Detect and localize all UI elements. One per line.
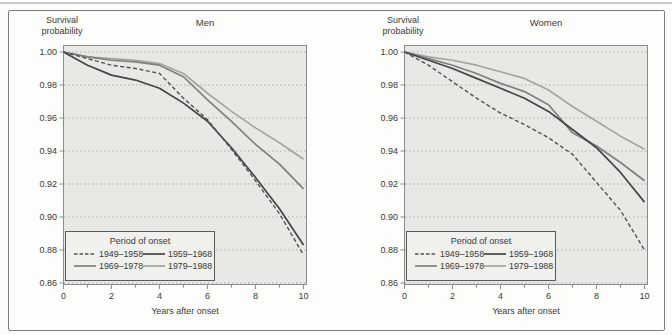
legend-label: 1949–1958: [99, 249, 143, 259]
y-tick-label: 0.94: [380, 146, 398, 156]
y-tick-label: 0.90: [380, 212, 398, 222]
legend-marker: [415, 251, 437, 257]
legend-item-1979-1988: 1979–1988: [143, 261, 212, 271]
y-tick-label: 0.86: [39, 278, 57, 288]
women-chart-title: Women: [424, 17, 668, 28]
legend-label: 1959–1968: [509, 249, 553, 259]
y-tick-label: 0.88: [39, 245, 57, 255]
x-tick-label: 2: [450, 291, 455, 301]
x-tick-label: 8: [253, 291, 258, 301]
page-top-rule: [0, 2, 672, 4]
x-tick-label: 6: [205, 291, 210, 301]
men-chart-panel: Survival probability Men 1.000.980.960.9…: [9, 11, 339, 328]
legend-item-1979-1988: 1979–1988: [484, 261, 553, 271]
men-legend-items: 1949–19581959–19681969–19781979–1988: [74, 249, 210, 271]
women-legend-title: Period of onset: [407, 236, 555, 246]
legend-label: 1969–1978: [99, 261, 143, 271]
legend-label: 1969–1978: [440, 261, 484, 271]
x-tick-label: 2: [109, 291, 114, 301]
y-tick-label: 1.00: [39, 47, 57, 57]
legend-marker: [74, 251, 96, 257]
men-legend-title: Period of onset: [66, 236, 214, 246]
legend-item-1949-1958: 1949–1958: [415, 249, 484, 259]
legend-marker: [143, 263, 165, 269]
legend-item-1959-1968: 1959–1968: [143, 249, 212, 259]
y-tick-label: 0.92: [380, 179, 398, 189]
x-tick-label: 10: [298, 291, 308, 301]
y-tick-label: 0.96: [39, 113, 57, 123]
y-tick-label: 0.88: [380, 245, 398, 255]
x-tick-label: 0: [61, 291, 66, 301]
legend-marker: [74, 263, 96, 269]
legend-label: 1949–1958: [440, 249, 484, 259]
legend-item-1959-1968: 1959–1968: [484, 249, 553, 259]
y-tick-label: 0.94: [39, 146, 57, 156]
legend-marker: [143, 251, 165, 257]
men-legend: Period of onset 1949–19581959–19681969–1…: [65, 231, 215, 281]
women-legend: Period of onset 1949–19581959–19681969–1…: [406, 231, 556, 281]
x-tick-label: 0: [402, 291, 407, 301]
women-chart-panel: Survival probability Women 1.000.980.960…: [350, 11, 672, 328]
legend-marker: [484, 263, 506, 269]
y-tick-label: 0.92: [39, 179, 57, 189]
y-tick-label: 1.00: [380, 47, 398, 57]
legend-label: 1959–1968: [168, 249, 212, 259]
legend-marker: [484, 251, 506, 257]
legend-label: 1979–1988: [509, 261, 553, 271]
legend-marker: [415, 263, 437, 269]
legend-item-1969-1978: 1969–1978: [415, 261, 484, 271]
men-x-axis-title: Years after onset: [63, 306, 307, 316]
legend-item-1949-1958: 1949–1958: [74, 249, 143, 259]
women-x-axis-title: Years after onset: [404, 306, 648, 316]
y-tick-label: 0.98: [39, 80, 57, 90]
women-legend-items: 1949–19581959–19681969–19781979–1988: [415, 249, 551, 271]
men-chart-title: Men: [83, 17, 327, 28]
y-tick-label: 0.98: [380, 80, 398, 90]
x-tick-label: 10: [639, 291, 649, 301]
legend-label: 1979–1988: [168, 261, 212, 271]
x-tick-label: 8: [594, 291, 599, 301]
y-tick-label: 0.96: [380, 113, 398, 123]
y-tick-label: 0.90: [39, 212, 57, 222]
y-tick-label: 0.86: [380, 278, 398, 288]
x-tick-label: 4: [157, 291, 162, 301]
figure-frame: Survival probability Men 1.000.980.960.9…: [8, 10, 665, 331]
legend-item-1969-1978: 1969–1978: [74, 261, 143, 271]
x-tick-label: 4: [498, 291, 503, 301]
x-tick-label: 6: [546, 291, 551, 301]
